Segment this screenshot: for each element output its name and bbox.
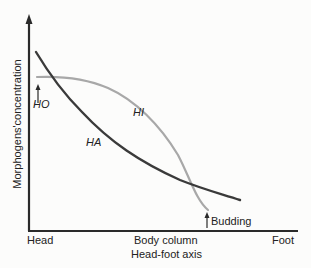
- budding-arrowhead-icon: [205, 212, 210, 218]
- budding-label: Budding: [211, 215, 251, 227]
- diagram-canvas: Morphogens'concentration HO HI HA Buddin…: [0, 0, 311, 268]
- x-tick-foot: Foot: [272, 234, 294, 246]
- x-tick-body-column: Body column: [134, 234, 198, 246]
- y-axis-arrow-icon: [26, 14, 33, 24]
- ha-curve: [36, 52, 240, 200]
- hi-label: HI: [133, 106, 144, 118]
- ho-arrowhead-icon: [36, 84, 41, 90]
- x-tick-head: Head: [27, 234, 53, 246]
- ho-label: HO: [33, 98, 50, 110]
- plot-area: [0, 0, 311, 268]
- ha-label: HA: [86, 136, 101, 148]
- y-axis-label: Morphogens'concentration: [11, 49, 23, 199]
- hi-curve: [37, 77, 208, 210]
- x-axis-label: Head-foot axis: [131, 248, 202, 260]
